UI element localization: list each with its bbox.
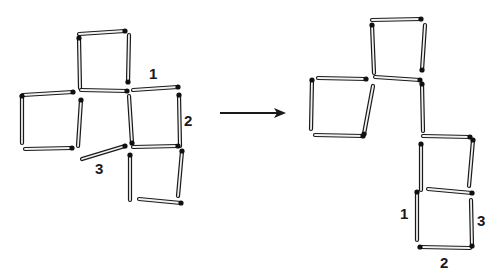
matchstick bbox=[127, 152, 132, 200]
match-head-icon bbox=[19, 93, 24, 98]
match-head-icon bbox=[179, 148, 184, 153]
match-head-icon bbox=[122, 28, 127, 33]
diagram-canvas bbox=[0, 0, 502, 280]
matchstick bbox=[423, 134, 473, 139]
matchstick-3 bbox=[469, 200, 474, 249]
matchstick bbox=[79, 28, 128, 34]
matchstick-3 bbox=[82, 143, 128, 159]
match-head-icon bbox=[309, 77, 314, 82]
matchstick bbox=[78, 97, 84, 146]
before-match-label-3: 3 bbox=[95, 161, 103, 176]
matchstick bbox=[369, 22, 374, 73]
matchstick bbox=[309, 77, 314, 129]
matchstick-2 bbox=[176, 92, 181, 146]
match-head-icon bbox=[418, 141, 423, 146]
before-figure bbox=[19, 28, 184, 205]
match-head-icon bbox=[417, 244, 422, 249]
matchstick bbox=[25, 145, 75, 150]
matchstick-puzzle-diagram: 123123 bbox=[0, 0, 502, 280]
match-head-icon bbox=[175, 84, 180, 89]
match-head-icon bbox=[176, 92, 181, 97]
matchstick bbox=[129, 96, 135, 146]
matchstick-2 bbox=[417, 244, 470, 249]
match-head-icon bbox=[469, 243, 474, 248]
after-figure bbox=[309, 16, 475, 249]
match-head-icon bbox=[414, 189, 419, 194]
match-head-icon bbox=[175, 143, 180, 148]
match-head-icon bbox=[70, 89, 75, 94]
matchstick-1 bbox=[414, 189, 419, 240]
match-head-icon bbox=[419, 81, 424, 86]
match-head-icon bbox=[78, 97, 83, 102]
matchstick bbox=[375, 77, 423, 83]
match-head-icon bbox=[178, 200, 183, 205]
match-head-icon bbox=[76, 35, 81, 40]
match-head-icon bbox=[369, 22, 374, 27]
matchstick bbox=[139, 199, 184, 206]
matchstick bbox=[428, 189, 475, 196]
match-head-icon bbox=[124, 88, 129, 93]
after-match-label-2: 2 bbox=[440, 255, 448, 270]
after-match-label-3: 3 bbox=[477, 213, 485, 228]
matchstick bbox=[76, 35, 81, 88]
matchstick bbox=[318, 76, 369, 81]
match-head-icon bbox=[129, 140, 134, 145]
matchstick bbox=[81, 88, 130, 93]
transform-arrow-icon bbox=[220, 108, 286, 118]
matchstick-1 bbox=[133, 84, 181, 90]
matchstick bbox=[469, 137, 476, 186]
match-head-icon bbox=[69, 145, 74, 150]
matchstick bbox=[315, 133, 366, 138]
matchstick bbox=[372, 16, 424, 21]
match-head-icon bbox=[418, 16, 423, 21]
matchstick bbox=[419, 25, 425, 73]
match-head-icon bbox=[125, 79, 130, 84]
matchstick bbox=[419, 81, 424, 131]
match-head-icon bbox=[363, 76, 368, 81]
match-head-icon bbox=[470, 137, 475, 142]
match-head-icon bbox=[419, 67, 424, 72]
match-head-icon bbox=[469, 190, 474, 195]
match-head-icon bbox=[361, 131, 366, 136]
before-match-label-2: 2 bbox=[184, 113, 192, 128]
matchstick bbox=[133, 143, 181, 148]
matchstick bbox=[178, 148, 185, 196]
before-match-label-1: 1 bbox=[149, 66, 157, 81]
after-match-label-1: 1 bbox=[400, 206, 408, 221]
matchstick bbox=[125, 35, 130, 85]
matchstick bbox=[361, 86, 373, 137]
matchstick bbox=[418, 141, 423, 190]
match-head-icon bbox=[127, 152, 132, 157]
match-head-icon bbox=[122, 143, 127, 148]
matchstick bbox=[23, 89, 76, 95]
matchstick bbox=[19, 93, 24, 143]
